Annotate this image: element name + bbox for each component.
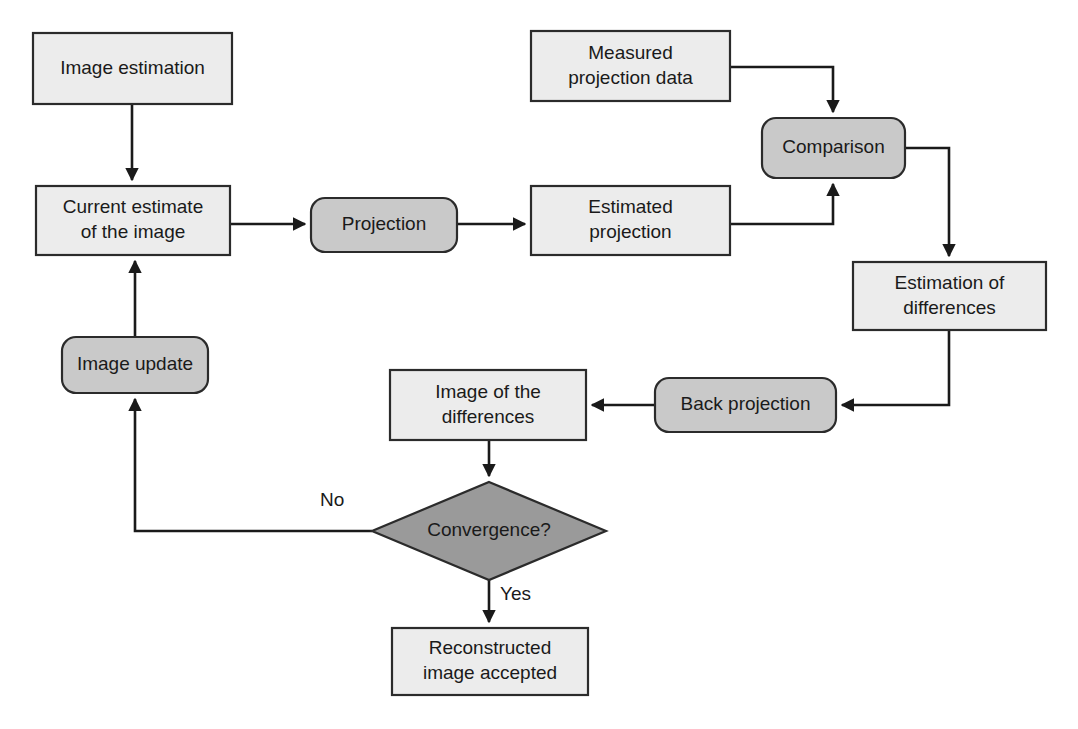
node-estimated-projection[interactable]: Estimatedprojection xyxy=(531,186,730,255)
node-layer: Image estimationCurrent estimateof the i… xyxy=(33,31,1046,695)
node-label-image-estimation: Image estimation xyxy=(60,57,205,78)
node-label-estimation-of-differences: Estimation of xyxy=(895,272,1006,293)
connector-estimated-projection-to-comparison xyxy=(730,184,833,224)
flowchart-canvas: Image estimationCurrent estimateof the i… xyxy=(0,0,1078,729)
node-image-update[interactable]: Image update xyxy=(62,337,208,393)
node-label-estimation-of-differences: differences xyxy=(903,297,996,318)
node-label-image-update: Image update xyxy=(77,353,193,374)
flowchart-svg: Image estimationCurrent estimateof the i… xyxy=(0,0,1078,729)
node-label-comparison: Comparison xyxy=(782,136,884,157)
connector-comparison-to-estimation-of-differences xyxy=(905,148,949,256)
edge-label-yes-label: Yes xyxy=(500,583,531,604)
node-label-image-of-differences: Image of the xyxy=(435,381,541,402)
connector-measured-projection-data-to-comparison xyxy=(730,67,833,112)
node-label-reconstructed-image-accepted: image accepted xyxy=(423,662,557,683)
node-label-convergence: Convergence? xyxy=(427,519,551,540)
node-label-current-estimate: Current estimate xyxy=(63,196,203,217)
node-label-projection: Projection xyxy=(342,213,427,234)
node-label-current-estimate: of the image xyxy=(81,221,186,242)
node-current-estimate[interactable]: Current estimateof the image xyxy=(36,186,230,255)
node-projection[interactable]: Projection xyxy=(311,198,457,252)
node-reconstructed-image-accepted[interactable]: Reconstructedimage accepted xyxy=(392,628,588,695)
connector-estimation-of-differences-to-back-projection xyxy=(842,330,949,405)
node-label-back-projection: Back projection xyxy=(681,393,811,414)
node-label-reconstructed-image-accepted: Reconstructed xyxy=(429,637,552,658)
node-label-image-of-differences: differences xyxy=(442,406,535,427)
node-back-projection[interactable]: Back projection xyxy=(655,378,836,432)
node-image-of-differences[interactable]: Image of thedifferences xyxy=(390,370,586,440)
edge-label-no-label: No xyxy=(320,489,344,510)
node-label-estimated-projection: projection xyxy=(589,221,671,242)
node-comparison[interactable]: Comparison xyxy=(762,118,905,178)
node-label-measured-projection-data: Measured xyxy=(588,42,673,63)
connector-convergence-no-to-image-update xyxy=(135,399,372,531)
node-measured-projection-data[interactable]: Measuredprojection data xyxy=(531,31,730,101)
node-label-estimated-projection: Estimated xyxy=(588,196,672,217)
node-label-measured-projection-data: projection data xyxy=(568,67,693,88)
node-estimation-of-differences[interactable]: Estimation ofdifferences xyxy=(853,262,1046,330)
node-convergence[interactable]: Convergence? xyxy=(372,482,606,580)
node-image-estimation[interactable]: Image estimation xyxy=(33,33,232,104)
